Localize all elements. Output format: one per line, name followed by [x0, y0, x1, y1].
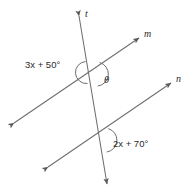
line-t [79, 16, 107, 184]
angle-label-theta: θ [104, 75, 109, 86]
line-label-m: m [144, 29, 151, 39]
angle-label-2x-70: 2x + 70° [113, 139, 148, 149]
line-n [48, 83, 171, 167]
geometry-figure: t m n 3x + 50° θ 2x + 70° [0, 0, 194, 196]
line-label-n: n [176, 74, 181, 84]
line-label-t: t [85, 9, 88, 19]
angle-label-3x-50: 3x + 50° [25, 60, 60, 70]
geometry-canvas [0, 0, 194, 196]
line-m [14, 38, 139, 123]
